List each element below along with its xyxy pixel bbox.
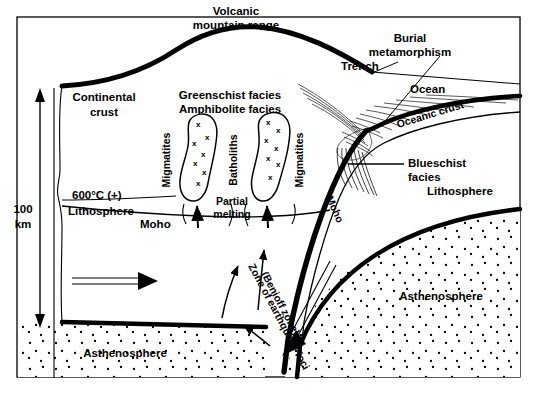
svg-text:x: x (264, 136, 269, 145)
migmatites-left-label: Migmatites (160, 132, 172, 187)
asthenosphere-right-label: Asthenosphere (399, 290, 483, 302)
isotherm-600c-label: 600°C (+) (72, 189, 122, 201)
migmatites-right-label: Migmatites (293, 132, 305, 187)
continental-crust-label-line2: crust (90, 106, 118, 118)
blueschist-facies-label-line2: facies (408, 171, 441, 183)
melt-arrow-right (267, 206, 268, 228)
subduction-zone-cross-section: xx xx xx x xx xx xx x Volcanic mountai (0, 0, 538, 395)
moho-left-label: Moho (140, 218, 171, 230)
partial-melting-label-line1: Partial (216, 195, 248, 207)
burial-metamorphism-label-line1: Burial (394, 32, 427, 44)
melt-arrow-left (197, 206, 198, 228)
batholiths-label: Batholiths (227, 134, 239, 185)
continental-crust-label-line1: Continental (72, 91, 135, 103)
svg-text:x: x (201, 150, 206, 159)
svg-text:x: x (266, 154, 271, 163)
svg-text:x: x (196, 179, 201, 188)
lithosphere-left-label: Lithosphere (68, 205, 134, 217)
ocean-label: Ocean (410, 83, 445, 95)
svg-text:x: x (268, 173, 273, 182)
asthenosphere-left-label: Asthenosphere (83, 347, 167, 359)
burial-metamorphism-label-line2: metamorphism (369, 46, 451, 58)
scale-unit-label: km (15, 218, 32, 230)
svg-text:x: x (193, 159, 198, 168)
svg-text:x: x (196, 120, 201, 129)
svg-text:x: x (202, 168, 207, 177)
svg-text:x: x (266, 118, 271, 127)
volcanic-range-label-line1: Volcanic (213, 5, 260, 17)
svg-text:x: x (274, 144, 279, 153)
volcanic-range-label-line2: mountain range (193, 19, 279, 31)
scale-value-label: 100 (13, 203, 32, 215)
svg-text:x: x (276, 126, 281, 135)
blueschist-facies-label-line1: Blueschist (408, 157, 466, 169)
svg-text:x: x (205, 133, 210, 142)
svg-text:x: x (276, 160, 281, 169)
svg-text:x: x (192, 139, 197, 148)
greenschist-facies-label: Greenschist facies (179, 89, 281, 101)
partial-melting-label-line2: melting (213, 208, 250, 220)
trench-label: Trench (341, 60, 379, 72)
lithosphere-right-label: Lithosphere (427, 185, 493, 197)
amphibolite-facies-label: Amphibolite facies (179, 103, 281, 115)
diagram-canvas: xx xx xx x xx xx xx x Volcanic mountai (0, 0, 538, 395)
